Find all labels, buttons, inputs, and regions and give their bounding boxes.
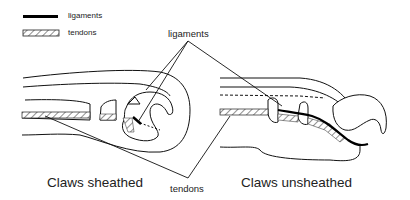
tendon-leader-lines [45, 116, 230, 178]
sheathed-ligament [133, 117, 141, 124]
caption-claws-sheathed: Claws sheathed [47, 175, 143, 190]
unsheathed-paw-drawing [220, 78, 386, 161]
sheathed-paw-drawing [22, 70, 190, 152]
legend-tendons-label: tendons [68, 28, 96, 37]
legend-symbols [23, 17, 59, 37]
tendons-callout: tendons [170, 183, 204, 194]
ligaments-callout: ligaments [168, 28, 209, 39]
tendon-legend-swatch [23, 30, 59, 36]
caption-claws-unsheathed: Claws unsheathed [241, 175, 352, 190]
unsheathed-tendons [220, 109, 345, 142]
sheathed-tendons [22, 112, 134, 132]
legend-ligaments-label: ligaments [68, 11, 102, 20]
